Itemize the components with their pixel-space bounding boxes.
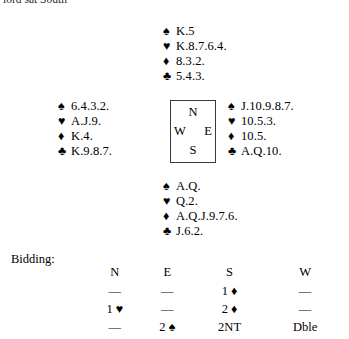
spade-icon: ♠ xyxy=(163,179,176,194)
hand-east-clubs-row: ♣ A.Q.10. xyxy=(228,144,294,159)
hand-north-hearts-row: ♥ K.8.7.6.4. xyxy=(163,39,227,54)
hand-north-diamonds: 8.3.2. xyxy=(176,54,205,69)
compass-north-label: N xyxy=(171,106,215,119)
hand-west-spades: 6.4.3.2. xyxy=(71,99,109,114)
hand-east-spades: J.10.9.8.7. xyxy=(241,99,294,114)
diamond-icon: ♦ xyxy=(58,129,71,144)
hand-south-hearts-row: ♥ Q.2. xyxy=(163,194,238,209)
bid-cell: — xyxy=(266,300,344,318)
hand-east-hearts-row: ♥ 10.5.3. xyxy=(228,114,294,129)
hand-north-clubs: 5.4.3. xyxy=(176,69,205,84)
hand-east: ♠ J.10.9.8.7. ♥ 10.5.3. ♦ 10.5. ♣ A.Q.10… xyxy=(228,99,294,159)
hand-south: ♠ A.Q. ♥ Q.2. ♦ A.Q.J.9.7.6. ♣ J.6.2. xyxy=(163,179,238,239)
hand-west-diamonds-row: ♦ K.4. xyxy=(58,129,112,144)
diamond-icon: ♦ xyxy=(163,209,176,224)
club-icon: ♣ xyxy=(58,144,71,159)
bidding-label: Bidding: xyxy=(11,252,55,267)
hand-east-diamonds-row: ♦ 10.5. xyxy=(228,129,294,144)
diamond-icon: ♦ xyxy=(228,129,241,144)
club-icon: ♣ xyxy=(163,224,176,239)
bid-cell: — xyxy=(142,300,193,318)
spade-icon: ♠ xyxy=(163,24,176,39)
hand-south-diamonds-row: ♦ A.Q.J.9.7.6. xyxy=(163,209,238,224)
hand-south-clubs-row: ♣ J.6.2. xyxy=(163,224,238,239)
hand-south-hearts: Q.2. xyxy=(176,194,198,209)
hand-north-spades-row: ♠ K.5 xyxy=(163,24,227,39)
compass-west-label: W xyxy=(174,125,186,138)
compass-south-label: S xyxy=(171,144,215,157)
hand-north-spades: K.5 xyxy=(176,24,195,39)
bidding-row: — — 1 ♦ — xyxy=(88,282,344,300)
bid-cell: — xyxy=(142,282,193,300)
bid-cell: 2 ♦ xyxy=(193,300,266,318)
spade-icon: ♠ xyxy=(228,99,241,114)
hand-north: ♠ K.5 ♥ K.8.7.6.4. ♦ 8.3.2. ♣ 5.4.3. xyxy=(163,24,227,84)
heart-icon: ♥ xyxy=(163,39,176,54)
bidding-col-header-e: E xyxy=(142,263,193,282)
hand-west-spades-row: ♠ 6.4.3.2. xyxy=(58,99,112,114)
hand-west-clubs-row: ♣ K.9.8.7. xyxy=(58,144,112,159)
bidding-table: N E S W — — 1 ♦ — 1 ♥ — 2 ♦ — — 2 ♠ 2NT … xyxy=(88,263,344,336)
hand-east-diamonds: 10.5. xyxy=(241,129,267,144)
hand-west: ♠ 6.4.3.2. ♥ A.J.9. ♦ K.4. ♣ K.9.8.7. xyxy=(58,99,112,159)
bid-cell: 1 ♥ xyxy=(88,300,142,318)
diamond-icon: ♦ xyxy=(163,54,176,69)
heart-icon: ♥ xyxy=(228,114,241,129)
hand-south-spades: A.Q. xyxy=(176,179,201,194)
bidding-row: — 2 ♠ 2NT Dble xyxy=(88,318,344,336)
bidding-col-header-n: N xyxy=(88,263,142,282)
hand-west-hearts-row: ♥ A.J.9. xyxy=(58,114,112,129)
bidding-col-header-s: S xyxy=(193,263,266,282)
spade-icon: ♠ xyxy=(58,99,71,114)
hand-east-clubs: A.Q.10. xyxy=(241,144,282,159)
hand-south-clubs: J.6.2. xyxy=(176,224,203,239)
hand-west-diamonds: K.4. xyxy=(71,129,93,144)
hand-north-hearts: K.8.7.6.4. xyxy=(176,39,227,54)
bid-cell: 2 ♠ xyxy=(142,318,193,336)
club-icon: ♣ xyxy=(163,69,176,84)
club-icon: ♣ xyxy=(228,144,241,159)
bid-cell: 1 ♦ xyxy=(193,282,266,300)
bid-cell: — xyxy=(88,318,142,336)
heart-icon: ♥ xyxy=(58,114,71,129)
heart-icon: ♥ xyxy=(163,194,176,209)
bidding-row: 1 ♥ — 2 ♦ — xyxy=(88,300,344,318)
hand-east-hearts: 10.5.3. xyxy=(241,114,276,129)
bidding-header-row: N E S W xyxy=(88,263,344,282)
hand-north-clubs-row: ♣ 5.4.3. xyxy=(163,69,227,84)
bid-cell: — xyxy=(266,282,344,300)
hand-west-hearts: A.J.9. xyxy=(71,114,101,129)
bidding-col-header-w: W xyxy=(266,263,344,282)
caption-text: lord sat South xyxy=(3,0,67,6)
bid-cell: 2NT xyxy=(193,318,266,336)
bid-cell: — xyxy=(88,282,142,300)
compass-box: N W E S xyxy=(170,100,216,163)
hand-south-diamonds: A.Q.J.9.7.6. xyxy=(176,209,238,224)
hand-south-spades-row: ♠ A.Q. xyxy=(163,179,238,194)
bid-cell: Dble xyxy=(266,318,344,336)
compass-east-label: E xyxy=(204,125,212,138)
hand-north-diamonds-row: ♦ 8.3.2. xyxy=(163,54,227,69)
hand-west-clubs: K.9.8.7. xyxy=(71,144,112,159)
hand-east-spades-row: ♠ J.10.9.8.7. xyxy=(228,99,294,114)
